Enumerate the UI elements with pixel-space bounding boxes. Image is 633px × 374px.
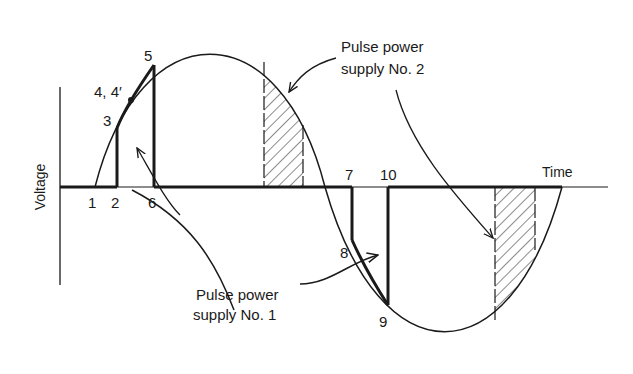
- point-label-4: 4, 4′: [94, 83, 122, 100]
- point-label-9: 9: [379, 313, 387, 330]
- y-axis-label: Voltage: [32, 163, 48, 210]
- point-label-10: 10: [380, 166, 397, 183]
- point-label-2: 2: [111, 194, 119, 211]
- x-axis-label: Time: [542, 164, 573, 180]
- point-label-6: 6: [148, 194, 156, 211]
- point-label-1: 1: [88, 194, 96, 211]
- supply2-arrow-a: [289, 58, 336, 92]
- supply1-caption-line2: supply No. 1: [193, 306, 276, 323]
- hatched-area-positive: [264, 20, 303, 187]
- point-label-5: 5: [144, 47, 152, 64]
- supply2-caption-line1: Pulse power: [341, 38, 424, 55]
- point-label-3: 3: [103, 112, 111, 129]
- supply2-caption-line2: supply No. 2: [341, 60, 424, 77]
- point-4-marker: [128, 97, 134, 103]
- supply2-arrow-b: [396, 90, 493, 238]
- pulse-welding-diagram: Voltage Time 1 2 6 3 4, 4′ 5 7 10 8 9 Pu…: [0, 0, 633, 374]
- point-label-7: 7: [345, 166, 353, 183]
- welding-voltage-trace: [60, 65, 562, 305]
- ac-voltage-sine-wave: [95, 54, 562, 332]
- point-label-8: 8: [340, 244, 348, 261]
- supply1-caption-line1: Pulse power: [196, 286, 279, 303]
